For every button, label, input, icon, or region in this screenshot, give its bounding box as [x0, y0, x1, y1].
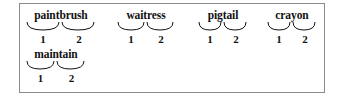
morpheme-number: 1 [266, 33, 292, 46]
morpheme-arcs-paintbrush [25, 21, 97, 32]
morpheme-number: 1 [116, 33, 146, 46]
morpheme-number: 1 [25, 72, 56, 85]
morpheme-number: 1 [25, 33, 61, 46]
morpheme-numbers-maintain: 1 2 [25, 72, 87, 85]
morpheme-arcs-waitress [116, 21, 176, 32]
word-group-pigtail: pigtail 1 2 [197, 9, 249, 46]
morpheme-number: 2 [223, 33, 249, 46]
arc-pair-icon [116, 21, 176, 32]
morpheme-number: 2 [146, 33, 176, 46]
morpheme-number: 2 [292, 33, 318, 46]
arc-pair-icon [25, 60, 87, 71]
word-group-maintain: maintain 1 2 [25, 48, 87, 85]
word-label-crayon: crayon [266, 9, 318, 21]
morpheme-exercise-frame: paintbrush 1 2 waitress 1 2 pigtail [19, 3, 325, 93]
morpheme-number: 1 [197, 33, 223, 46]
word-label-waitress: waitress [116, 9, 176, 21]
morpheme-numbers-paintbrush: 1 2 [25, 33, 97, 46]
word-group-waitress: waitress 1 2 [116, 9, 176, 46]
arc-pair-icon [197, 21, 249, 32]
morpheme-arcs-crayon [266, 21, 318, 32]
arc-pair-icon [266, 21, 318, 32]
morpheme-arcs-maintain [25, 60, 87, 71]
morpheme-arcs-pigtail [197, 21, 249, 32]
arc-pair-icon [25, 21, 97, 32]
morpheme-numbers-pigtail: 1 2 [197, 33, 249, 46]
word-label-maintain: maintain [25, 48, 87, 60]
morpheme-numbers-crayon: 1 2 [266, 33, 318, 46]
word-label-paintbrush: paintbrush [25, 9, 97, 21]
word-group-paintbrush: paintbrush 1 2 [25, 9, 97, 46]
morpheme-numbers-waitress: 1 2 [116, 33, 176, 46]
morpheme-number: 2 [56, 72, 87, 85]
word-group-crayon: crayon 1 2 [266, 9, 318, 46]
word-label-pigtail: pigtail [197, 9, 249, 21]
morpheme-number: 2 [61, 33, 97, 46]
